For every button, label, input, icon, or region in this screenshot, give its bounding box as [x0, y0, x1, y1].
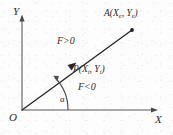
origin-label: O [9, 112, 17, 123]
figure-canvas: Y X O A(Xe, Ye) P(Xi, Yi) F>0 F<0 α [0, 0, 173, 135]
x-axis-arrowhead [151, 108, 158, 113]
region-positive-value: 0 [70, 35, 75, 46]
region-label-f-positive: F>0 [57, 36, 75, 46]
x-axis-label: X [155, 114, 162, 125]
region-negative-operator: < [84, 81, 91, 92]
point-a-label: A(Xe, Ye) [104, 9, 138, 19]
point-a-label-prefix: A(X [104, 8, 119, 18]
point-p-label: P(Xi, Yi) [73, 65, 105, 75]
point-a-label-suffix: ) [135, 8, 138, 18]
region-label-f-negative: F<0 [78, 82, 96, 92]
point-p-label-mid: , Y [90, 64, 100, 74]
point-p-label-suffix: ) [101, 64, 104, 74]
region-negative-value: 0 [91, 81, 96, 92]
y-axis-label: Y [13, 6, 19, 17]
point-marker-a [130, 28, 134, 32]
angle-alpha-label: α [60, 95, 64, 104]
y-axis-arrowhead [19, 15, 24, 22]
point-p-label-prefix: P(X [73, 64, 88, 74]
point-a-label-mid: , Y [122, 8, 132, 18]
region-positive-operator: > [63, 35, 70, 46]
